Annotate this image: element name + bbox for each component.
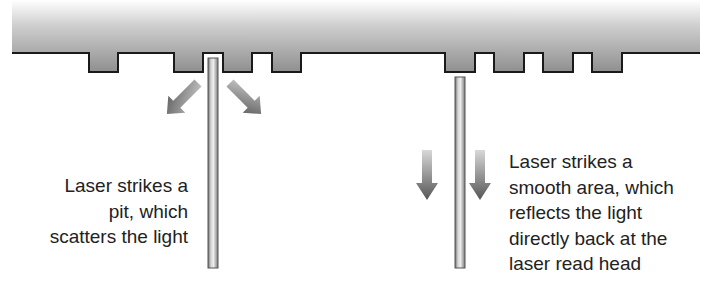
laser-beam-pit — [208, 58, 218, 268]
laser-beam-land — [455, 77, 465, 268]
caption-land-line: directly back at the — [509, 226, 674, 252]
caption-land-line: Laser strikes a — [509, 149, 674, 175]
scatter-arrow-right-icon — [222, 75, 270, 123]
caption-pit-line: pit, which — [50, 199, 188, 225]
caption-pit-line: scatters the light — [50, 224, 188, 250]
caption-land-line: reflects the light — [509, 200, 674, 226]
caption-pit-line: Laser strikes a — [50, 173, 188, 199]
caption-pit: Laser strikes a pit, which scatters the … — [50, 173, 188, 250]
reflect-arrow-right-icon — [469, 150, 491, 200]
reflect-arrow-left-icon — [416, 150, 438, 200]
caption-land-line: smooth area, which — [509, 175, 674, 201]
caption-land: Laser strikes a smooth area, which refle… — [509, 149, 674, 277]
scatter-arrow-left-icon — [158, 75, 206, 123]
caption-land-line: laser read head — [509, 251, 674, 277]
disc-surface — [12, 0, 700, 72]
